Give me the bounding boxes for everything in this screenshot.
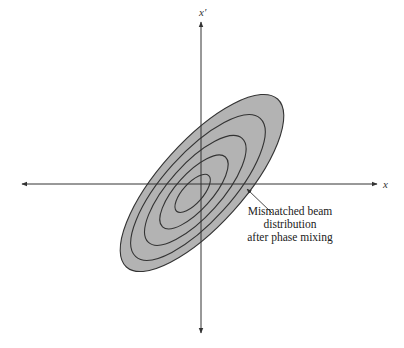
beam-distribution <box>95 71 309 295</box>
annotation-line-1: Mismatched beam <box>248 205 333 217</box>
outer-contour <box>95 71 309 295</box>
annotation-text: Mismatched beam distribution after phase… <box>247 205 333 244</box>
annotation-line-3: after phase mixing <box>247 231 333 244</box>
phase-space-diagram: x x′ Mismatched beam distribution after … <box>0 0 404 348</box>
vertical-axis-label: x′ <box>198 6 207 18</box>
annotation-line-2: distribution <box>263 218 316 230</box>
horizontal-axis-label: x <box>382 178 388 190</box>
